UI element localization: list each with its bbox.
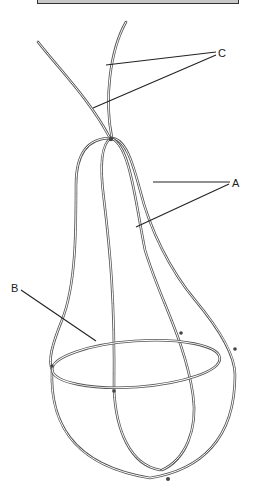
- label-b: B: [11, 282, 18, 294]
- top-knot: [109, 137, 113, 141]
- label-a: A: [232, 177, 240, 189]
- ring-knot-left: [50, 364, 54, 368]
- pear-wire-diagram: C A B: [0, 0, 259, 504]
- callout-a: A: [136, 177, 240, 227]
- callout-b: B: [11, 282, 96, 341]
- ring-knot-front: [112, 389, 116, 393]
- label-c: C: [218, 47, 226, 59]
- wire-frame: [38, 22, 237, 481]
- bottom-knot: [166, 477, 170, 481]
- ring-knot-right: [233, 347, 237, 351]
- ring-knot-back: [179, 331, 183, 335]
